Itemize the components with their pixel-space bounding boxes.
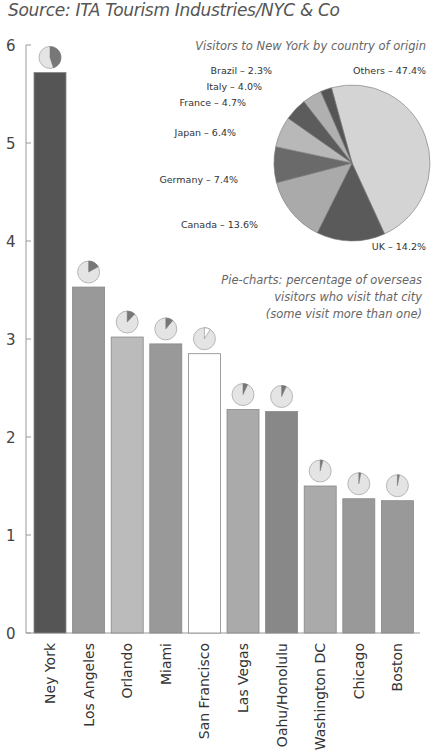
pie-label: Italy – 4.0% xyxy=(206,81,262,92)
pie-title: Visitors to New York by country of origi… xyxy=(195,39,426,53)
pie-label: France – 4.7% xyxy=(179,97,246,108)
y-tick-label: 0 xyxy=(6,625,16,643)
bar xyxy=(304,486,336,633)
bar xyxy=(343,499,375,633)
bar xyxy=(111,337,143,633)
y-tick-label: 3 xyxy=(6,331,16,349)
category-label: Las Vegas xyxy=(235,643,251,713)
y-tick-label: 6 xyxy=(6,37,16,55)
bar xyxy=(266,412,298,633)
bar xyxy=(150,344,182,633)
bar xyxy=(34,72,66,633)
pie-label: Germany – 7.4% xyxy=(159,174,238,185)
y-tick-label: 2 xyxy=(6,429,16,447)
bar xyxy=(73,287,105,633)
pie-label: Japan – 6.4% xyxy=(174,127,236,138)
pie-chart-note: (some visit more than one) xyxy=(266,307,422,321)
category-label: Ney York xyxy=(42,642,58,704)
pie-label: Brazil – 2.3% xyxy=(211,65,272,76)
category-label: Los Angeles xyxy=(81,643,97,727)
pie-label: Canada – 13.6% xyxy=(181,219,258,230)
bar-chart: 0123456Ney YorkLos AngelesOrlandoMiamiSa… xyxy=(0,0,434,756)
category-label: San Francisco xyxy=(196,643,212,739)
bar xyxy=(227,410,259,633)
y-tick-label: 1 xyxy=(6,527,16,545)
pie-label: UK – 14.2% xyxy=(372,241,426,252)
category-label: Chicago xyxy=(351,643,367,699)
bar xyxy=(381,501,413,633)
category-label: Miami xyxy=(158,643,174,685)
pie-chart-note: Pie-charts: percentage of overseas xyxy=(221,273,422,287)
pie-label: Others – 47.4% xyxy=(353,65,426,76)
category-label: Oahu/Honolulu xyxy=(274,643,290,747)
y-tick-label: 5 xyxy=(6,135,16,153)
category-label: Boston xyxy=(389,643,405,691)
y-tick-label: 4 xyxy=(6,233,16,251)
bar xyxy=(188,354,220,633)
pie-chart-note: visitors who visit that city xyxy=(274,290,422,304)
category-label: Washington DC xyxy=(312,643,328,751)
category-label: Orlando xyxy=(119,643,135,699)
